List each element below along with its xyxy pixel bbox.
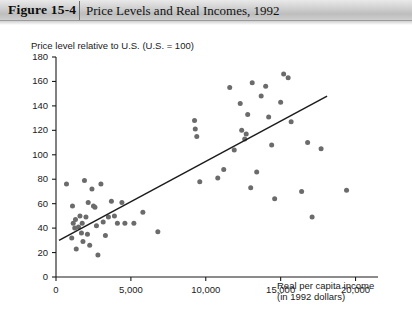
y-tick-label: 160 <box>20 75 48 86</box>
x-tick-label: 10,000 <box>183 284 229 295</box>
data-point <box>80 239 85 244</box>
data-point <box>192 118 197 123</box>
y-tick-label: 80 <box>20 173 48 184</box>
data-point <box>239 128 244 133</box>
data-point <box>92 205 97 210</box>
figure-number: Figure 15-4 <box>8 2 76 18</box>
data-point <box>272 196 277 201</box>
data-point <box>70 204 75 209</box>
scatter-chart: Price level relative to U.S. (U.S. = 100… <box>0 25 412 321</box>
x-tick-label: 5,000 <box>108 284 154 295</box>
data-point <box>77 213 82 218</box>
data-point <box>269 143 274 148</box>
data-point <box>109 199 114 204</box>
data-point <box>215 176 220 181</box>
x-tick-label: 0 <box>33 284 79 295</box>
data-point <box>140 210 145 215</box>
data-point <box>69 235 74 240</box>
data-point <box>244 132 249 137</box>
data-point <box>87 243 92 248</box>
data-point <box>263 84 268 89</box>
x-tick-label: 20,000 <box>333 284 379 295</box>
y-tick-label: 20 <box>20 247 48 258</box>
data-point <box>232 147 237 152</box>
data-point <box>131 221 136 226</box>
header-divider <box>79 1 80 20</box>
y-tick-label: 100 <box>20 149 48 160</box>
regression-line <box>59 96 327 240</box>
plot-svg <box>0 25 412 321</box>
data-point <box>344 188 349 193</box>
data-point <box>94 223 99 228</box>
data-point <box>101 220 106 225</box>
figure-container: Figure 15-4 Price Levels and Real Income… <box>0 0 412 321</box>
data-point <box>82 178 87 183</box>
y-tick-label: 120 <box>20 124 48 135</box>
data-point <box>227 85 232 90</box>
data-point <box>73 217 78 222</box>
data-point <box>194 134 199 139</box>
y-tick-label: 60 <box>20 198 48 209</box>
axes <box>52 57 378 281</box>
data-point <box>86 200 91 205</box>
y-tick-label: 40 <box>20 222 48 233</box>
data-point <box>103 233 108 238</box>
data-point <box>278 100 283 105</box>
data-point <box>286 75 291 80</box>
data-point <box>95 253 100 258</box>
data-point <box>193 127 198 132</box>
data-point <box>119 200 124 205</box>
data-point <box>98 182 103 187</box>
data-point <box>319 146 324 151</box>
data-point <box>83 215 88 220</box>
data-point <box>155 229 160 234</box>
data-point <box>250 80 255 85</box>
data-point <box>122 221 127 226</box>
data-point <box>238 101 243 106</box>
data-point <box>85 232 90 237</box>
data-point <box>310 215 315 220</box>
data-point <box>245 112 250 117</box>
data-points <box>64 72 349 258</box>
data-point <box>305 140 310 145</box>
data-point <box>197 179 202 184</box>
data-point <box>248 185 253 190</box>
data-point <box>79 231 84 236</box>
data-point <box>80 221 85 226</box>
data-point <box>299 189 304 194</box>
data-point <box>112 213 117 218</box>
data-point <box>221 167 226 172</box>
data-point <box>259 94 264 99</box>
data-point <box>266 114 271 119</box>
y-tick-label: 0 <box>20 271 48 282</box>
y-tick-label: 140 <box>20 100 48 111</box>
data-point <box>74 246 79 251</box>
y-tick-label: 180 <box>20 51 48 62</box>
data-point <box>281 72 286 77</box>
data-point <box>64 182 69 187</box>
figure-title: Price Levels and Real Incomes, 1992 <box>86 3 280 19</box>
data-point <box>289 119 294 124</box>
data-point <box>254 169 259 174</box>
data-point <box>89 187 94 192</box>
x-tick-label: 15,000 <box>258 284 304 295</box>
trend-line <box>59 96 327 240</box>
data-point <box>115 221 120 226</box>
